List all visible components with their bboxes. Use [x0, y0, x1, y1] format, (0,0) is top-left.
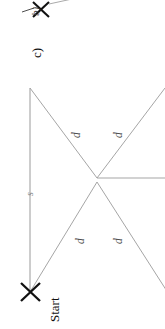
path-upper-v — [30, 88, 165, 178]
segment-label-d-3: d — [75, 238, 87, 244]
start-label: Start — [48, 297, 61, 322]
path-lower-right — [97, 182, 165, 296]
figure-drawing — [0, 0, 165, 329]
segment-label-d-1: d — [71, 132, 83, 138]
figure-panel-c: b) c) s d d d d Start — [0, 0, 165, 329]
path-lower-guide — [30, 178, 165, 292]
baseline-label-s: s — [25, 192, 35, 196]
panel-label-c: c) — [30, 48, 43, 58]
previous-panel-path-fragment — [49, 0, 95, 4]
segment-label-d-4: d — [113, 238, 125, 244]
segment-label-d-2: d — [113, 132, 125, 138]
panel-label-b: b) — [30, 7, 41, 16]
path-lower-left — [30, 182, 97, 292]
